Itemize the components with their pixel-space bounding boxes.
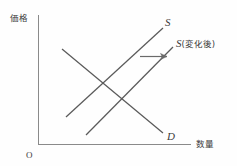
demand-curve: [62, 49, 163, 133]
demand-curve-label: D: [167, 131, 175, 142]
shift-arrow-icon: [140, 53, 167, 59]
origin-label: O: [26, 151, 33, 160]
x-axis-label: 数量: [196, 140, 214, 149]
supply-curve-shifted: [86, 47, 173, 135]
supply-shifted-curve-label: S(変化後): [176, 38, 215, 49]
supply-shifted-suffix: (変化後): [182, 39, 216, 49]
y-axis-label: 価格: [10, 14, 28, 23]
supply-demand-figure: 価格 数量 O S S(変化後) D: [0, 0, 237, 166]
supply-curve-label: S: [165, 17, 171, 28]
